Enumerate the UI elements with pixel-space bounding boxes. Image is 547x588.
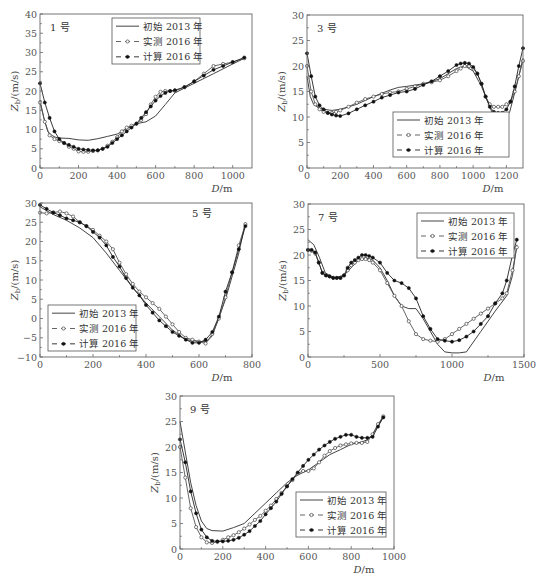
open-circle-marker-icon	[334, 446, 337, 449]
y-tick-label: 20	[25, 236, 37, 247]
filled-circle-marker-icon	[212, 68, 215, 71]
filled-circle-marker-icon	[335, 276, 338, 279]
filled-circle-marker-icon	[224, 290, 227, 293]
x-axis-label: D/m	[353, 564, 375, 575]
filled-circle-marker-icon	[458, 339, 461, 342]
open-circle-marker-icon	[463, 64, 466, 67]
filled-circle-marker-icon	[178, 334, 181, 337]
open-circle-marker-icon	[131, 282, 134, 285]
x-tick-label: 1500	[512, 359, 536, 370]
series-1	[305, 59, 524, 114]
filled-circle-marker-icon	[227, 539, 230, 542]
filled-circle-marker-icon	[118, 265, 121, 268]
x-tick-label: 0	[37, 170, 43, 181]
open-circle-marker-icon	[191, 338, 194, 341]
panel-label: 3 号	[317, 23, 337, 34]
open-circle-marker-icon	[178, 330, 181, 333]
filled-circle-marker-icon	[248, 530, 251, 533]
open-circle-marker-icon	[422, 338, 425, 341]
y-tick-label: 10	[25, 275, 37, 286]
open-circle-marker-icon	[355, 441, 358, 444]
open-circle-marker-icon	[164, 315, 167, 318]
open-circle-marker-icon	[318, 461, 321, 464]
open-circle-marker-icon	[458, 327, 461, 330]
y-tick-label: 0	[31, 163, 37, 174]
filled-circle-marker-icon	[472, 330, 475, 333]
open-circle-marker-icon	[486, 307, 489, 310]
y-tick-label: 20	[293, 250, 305, 261]
open-circle-marker-icon	[517, 75, 520, 78]
chart-panel-3: 0200400600800−10−5051015202530D/mZb/(m/s…	[9, 198, 261, 384]
filled-circle-marker-icon	[52, 211, 55, 214]
filled-circle-marker-icon	[126, 55, 129, 58]
filled-circle-marker-icon	[488, 105, 491, 108]
filled-circle-marker-icon	[197, 341, 200, 344]
x-tick-label: 800	[431, 170, 449, 181]
open-circle-marker-icon	[505, 103, 508, 106]
filled-circle-marker-icon	[450, 340, 453, 343]
y-tick-label: 5	[171, 518, 177, 529]
open-circle-marker-icon	[195, 526, 198, 529]
filled-circle-marker-icon	[393, 279, 396, 282]
x-tick-label: 200	[69, 170, 87, 181]
filled-circle-marker-icon	[414, 297, 417, 300]
y-tick-label: 20	[25, 86, 37, 97]
filled-circle-marker-icon	[43, 101, 46, 104]
filled-circle-marker-icon	[231, 61, 234, 64]
open-circle-marker-icon	[253, 518, 256, 521]
open-circle-marker-icon	[492, 105, 495, 108]
open-circle-marker-icon	[189, 507, 192, 510]
filled-circle-marker-icon	[280, 492, 283, 495]
open-circle-marker-icon	[479, 312, 482, 315]
filled-circle-marker-icon	[472, 65, 475, 68]
y-tick-label: 25	[165, 416, 177, 427]
filled-circle-marker-icon	[184, 461, 187, 464]
filled-circle-marker-icon	[211, 330, 214, 333]
filled-circle-marker-icon	[135, 122, 138, 125]
y-tick-label: 5	[299, 326, 305, 337]
filled-circle-marker-icon	[125, 130, 128, 133]
open-circle-marker-icon	[366, 440, 369, 443]
filled-circle-marker-icon	[310, 528, 313, 531]
open-circle-marker-icon	[237, 531, 240, 534]
filled-circle-marker-icon	[105, 244, 108, 247]
filled-circle-marker-icon	[202, 74, 205, 77]
x-tick-label: 600	[147, 170, 165, 181]
filled-circle-marker-icon	[125, 277, 128, 280]
filled-circle-marker-icon	[62, 342, 65, 345]
x-tick-label: 1000	[461, 170, 485, 181]
y-tick-label: 15	[293, 275, 305, 286]
series-2	[38, 56, 246, 152]
open-circle-marker-icon	[355, 101, 358, 104]
filled-circle-marker-icon	[111, 141, 114, 144]
series-line	[40, 58, 244, 152]
filled-circle-marker-icon	[63, 141, 66, 144]
open-circle-marker-icon	[472, 317, 475, 320]
filled-circle-marker-icon	[436, 338, 439, 341]
filled-circle-marker-icon	[372, 100, 375, 103]
filled-circle-marker-icon	[515, 238, 518, 241]
open-circle-marker-icon	[465, 322, 468, 325]
y-tick-label: 15	[292, 86, 304, 97]
panel-label: 9 号	[190, 404, 210, 415]
filled-circle-marker-icon	[253, 524, 256, 527]
y-tick-label: 30	[293, 199, 305, 210]
filled-circle-marker-icon	[447, 70, 450, 73]
y-tick-label: 40	[25, 9, 37, 20]
filled-circle-marker-icon	[204, 338, 207, 341]
x-tick-label: 1000	[382, 551, 406, 562]
open-circle-marker-icon	[171, 323, 174, 326]
y-tick-label: 5	[31, 143, 37, 154]
filled-circle-marker-icon	[205, 536, 208, 539]
x-tick-label: 1000	[221, 170, 245, 181]
open-circle-marker-icon	[243, 527, 246, 530]
open-circle-marker-icon	[120, 130, 123, 133]
y-tick-label: 0	[299, 352, 305, 363]
open-circle-marker-icon	[407, 320, 410, 323]
open-circle-marker-icon	[511, 269, 514, 272]
open-circle-marker-icon	[350, 442, 353, 445]
x-tick-label: 1000	[440, 359, 464, 370]
filled-circle-marker-icon	[312, 453, 315, 456]
y-axis-label: Zb/(m/s)	[276, 71, 289, 113]
filled-circle-marker-icon	[484, 95, 487, 98]
